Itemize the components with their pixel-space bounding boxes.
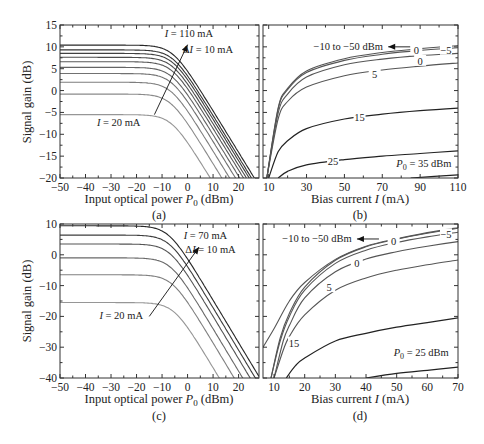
caption-d: (d): [353, 409, 368, 423]
x-tick-label: 20: [233, 181, 245, 193]
y-tick-label: 10: [46, 41, 58, 53]
x-tick-label: 10: [263, 181, 275, 193]
y-tick-label: 5: [51, 63, 57, 75]
chart-panel-a: −50−40−30−20−1001020−20−15−10−5051015I =…: [39, 19, 259, 257]
curve-label: 5: [372, 69, 377, 80]
x-axis-label-d: Bias current I (mA): [311, 392, 409, 406]
y-tick-label: −20: [39, 310, 57, 322]
y-tick-label: 0: [51, 249, 57, 261]
curve-label: 15: [289, 338, 300, 349]
y-tick-label: −40: [39, 372, 57, 384]
y-axis-label-bottom: Signal gain (dB): [20, 260, 34, 343]
x-tick-label: 90: [414, 181, 426, 193]
curve-label: 15: [354, 112, 365, 123]
curve-i-90-ma: [60, 53, 259, 194]
annotation: P0 = 25 dBm: [393, 347, 449, 361]
annotation: I = 70 mA: [183, 230, 228, 241]
curve-label: 25: [328, 156, 339, 167]
curve-label: 0: [354, 258, 359, 269]
caption-b: (b): [353, 208, 368, 222]
annotation: I = 20 mA: [98, 310, 143, 321]
y-tick-label: −10: [39, 128, 57, 140]
y-axis-label-top: Signal gain (dB): [20, 61, 34, 144]
y-tick-label: −15: [39, 150, 57, 162]
arrow-left-icon: [388, 44, 395, 50]
annotation: I = 110 mA: [164, 28, 214, 39]
chart-panel-d: 0−5051510203040506070−10 to −50 dBmP0 = …: [263, 224, 464, 393]
x-tick-label: 110: [450, 181, 467, 193]
curve-label: 5: [327, 282, 332, 293]
y-tick-label: −10: [39, 280, 57, 292]
curve-label: 0: [418, 56, 423, 67]
y-tick-label: −5: [45, 106, 57, 118]
curve-label: 0: [391, 236, 396, 247]
annotation: P0 = 35 dBm: [395, 158, 451, 172]
x-axis-label-c: Input optical power P0 (dBm): [85, 392, 234, 408]
y-tick-label: 0: [51, 85, 57, 97]
y-tick-label: 15: [46, 19, 58, 31]
x-tick-label: 20: [299, 381, 311, 393]
arrow-left-icon: [357, 236, 364, 242]
x-tick-label: 10: [268, 381, 280, 393]
chart-panel-b: 0−50515251030507090110−10 to −50 dBmP0 =…: [263, 25, 467, 193]
y-tick-label: 10: [46, 218, 58, 230]
caption-a: (a): [152, 208, 166, 222]
annotation: I = 20 mA: [96, 117, 141, 128]
annotation: −10 to −50 dBm: [282, 233, 351, 244]
x-tick-label: 20: [233, 381, 245, 393]
curve-label: 0: [414, 45, 419, 56]
annotation: ΔI = 10 mA: [185, 244, 236, 255]
curve-i-110-ma: [60, 45, 259, 186]
curve-i-100-ma: [60, 50, 259, 190]
x-axis-label-a: Input optical power P0 (dBm): [85, 192, 234, 208]
caption-c: (c): [152, 409, 166, 423]
chart-panel-c: −50−40−30−20−1001020−40−30−20−10010I = 7…: [39, 218, 259, 444]
annotation: ΔI = 10 mA: [183, 44, 234, 55]
curve-label: −5: [440, 229, 451, 240]
figure: −50−40−30−20−1001020−20−15−10−5051015I =…: [0, 0, 484, 444]
x-tick-label: 70: [452, 381, 464, 393]
y-tick-label: −30: [39, 341, 57, 353]
y-tick-label: −20: [39, 172, 57, 184]
x-tick-label: 60: [422, 381, 434, 393]
x-axis-label-b: Bias current I (mA): [311, 192, 409, 206]
annotation: −10 to −50 dBm: [314, 41, 383, 52]
curve-label: −5: [440, 45, 451, 56]
